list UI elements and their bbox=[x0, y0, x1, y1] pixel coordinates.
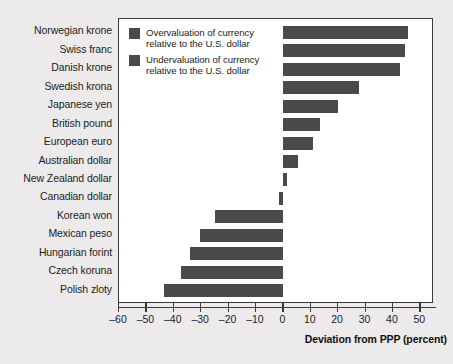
chart-legend: Overvaluation of currency relative to th… bbox=[129, 27, 311, 81]
category-label: New Zealand dollar bbox=[0, 173, 112, 184]
bar bbox=[164, 284, 283, 297]
x-tick bbox=[228, 303, 229, 312]
x-tick bbox=[365, 303, 366, 312]
bar bbox=[190, 247, 283, 260]
category-label: British pound bbox=[0, 118, 112, 129]
bar bbox=[283, 173, 287, 186]
bar bbox=[181, 266, 284, 279]
legend-swatch-undervaluation-icon bbox=[129, 55, 140, 66]
bar bbox=[283, 81, 358, 94]
category-label: Canadian dollar bbox=[0, 191, 112, 202]
plot-frame: Overvaluation of currency relative to th… bbox=[118, 18, 433, 303]
category-label: Czech koruna bbox=[0, 265, 112, 276]
bar bbox=[283, 100, 338, 113]
category-label: Polish zloty bbox=[0, 284, 112, 295]
legend-item-undervaluation: Undervaluation of currency relative to t… bbox=[129, 54, 311, 77]
category-label: Hungarian forint bbox=[0, 247, 112, 258]
legend-label-overvaluation: Overvaluation of currency relative to th… bbox=[146, 27, 254, 50]
x-axis-line bbox=[118, 307, 436, 308]
category-label: Korean won bbox=[0, 210, 112, 221]
x-tick bbox=[419, 303, 420, 312]
category-label: Norwegian krone bbox=[0, 25, 112, 36]
legend-swatch-overvaluation-icon bbox=[129, 28, 140, 39]
bar bbox=[283, 155, 298, 168]
x-tick bbox=[392, 303, 393, 312]
category-label: Danish krone bbox=[0, 62, 112, 73]
category-label: Swedish krona bbox=[0, 81, 112, 92]
category-label: Australian dollar bbox=[0, 155, 112, 166]
category-label: Japanese yen bbox=[0, 99, 112, 110]
x-axis-title: Deviation from PPP (percent) bbox=[0, 333, 447, 345]
legend-label-overvaluation-line1: Overvaluation of currency bbox=[146, 27, 254, 38]
x-tick-label: 50 bbox=[399, 313, 439, 325]
legend-label-undervaluation-line2: relative to the U.S. dollar bbox=[146, 65, 250, 76]
category-label: Swiss franc bbox=[0, 44, 112, 55]
legend-label-undervaluation: Undervaluation of currency relative to t… bbox=[146, 54, 259, 77]
x-tick bbox=[282, 303, 283, 312]
bar bbox=[283, 137, 313, 150]
legend-label-undervaluation-line1: Undervaluation of currency bbox=[146, 54, 259, 65]
bar bbox=[283, 118, 320, 131]
bar bbox=[279, 192, 283, 205]
x-tick bbox=[173, 303, 174, 312]
category-label: Mexican peso bbox=[0, 228, 112, 239]
legend-label-overvaluation-line2: relative to the U.S. dollar bbox=[146, 38, 250, 49]
x-tick bbox=[118, 303, 119, 312]
x-tick bbox=[337, 303, 338, 312]
x-tick bbox=[310, 303, 311, 312]
x-tick bbox=[255, 303, 256, 312]
bar bbox=[215, 210, 283, 223]
category-axis: Norwegian kroneSwiss francDanish kroneSw… bbox=[0, 18, 112, 303]
ppp-deviation-bar-chart: Norwegian kroneSwiss francDanish kroneSw… bbox=[0, 0, 453, 364]
bar bbox=[200, 229, 284, 242]
legend-item-overvaluation: Overvaluation of currency relative to th… bbox=[129, 27, 311, 50]
category-label: European euro bbox=[0, 136, 112, 147]
x-tick bbox=[145, 303, 146, 312]
x-tick bbox=[200, 303, 201, 312]
